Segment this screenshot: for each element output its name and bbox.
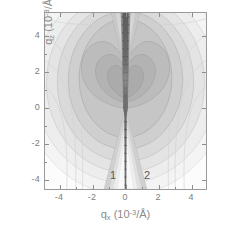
y-tick-major xyxy=(202,36,206,37)
annotation-2: 2 xyxy=(144,169,150,181)
x-tick-major xyxy=(93,185,94,189)
y-tick-major xyxy=(45,180,49,181)
x-axis-label: qx (10-3/Å) xyxy=(44,208,207,222)
y-axis-label-symbol: q xyxy=(42,39,54,45)
x-tick-label: 4 xyxy=(188,192,193,202)
y-axis-label-unit-close: /Å) xyxy=(42,0,54,9)
x-tick-major xyxy=(159,13,160,17)
x-tick-major xyxy=(192,185,193,189)
y-axis-label-wrap: qz (10-3/Å) xyxy=(14,12,30,190)
x-tick-minor xyxy=(142,187,143,189)
y-axis-label-unit-open: (10 xyxy=(42,16,54,35)
x-tick-major xyxy=(126,185,127,189)
plot-area: 1 2 xyxy=(44,12,207,190)
x-axis-label-unit-close: /Å) xyxy=(136,208,150,220)
y-tick-major xyxy=(202,72,206,73)
x-tick-label: 0 xyxy=(122,192,127,202)
x-tick-label: 2 xyxy=(155,192,160,202)
y-tick-major xyxy=(202,180,206,181)
y-tick-major xyxy=(202,108,206,109)
y-tick-major xyxy=(45,144,49,145)
contour-map xyxy=(45,13,206,189)
scattering-contour-figure: 1 2 -4 -2 0 2 4 xyxy=(0,0,241,241)
x-tick-minor xyxy=(76,187,77,189)
x-tick-major xyxy=(192,13,193,17)
x-tick-label: -4 xyxy=(55,192,63,202)
y-tick-minor xyxy=(45,162,47,163)
x-tick-label: -2 xyxy=(88,192,96,202)
annotation-1: 1 xyxy=(110,169,116,181)
y-axis-label-subscript: z xyxy=(47,35,56,39)
y-tick-major xyxy=(202,144,206,145)
y-tick-label: -4 xyxy=(32,174,40,184)
y-axis-label-exponent: -3 xyxy=(42,9,51,16)
x-tick-major xyxy=(93,13,94,17)
x-tick-major xyxy=(60,185,61,189)
x-axis-label-unit-open: (10 xyxy=(111,208,130,220)
y-axis-label: qz (10-3/Å) xyxy=(39,0,55,109)
x-tick-major xyxy=(159,185,160,189)
y-tick-minor xyxy=(45,126,47,127)
x-tick-major xyxy=(126,13,127,17)
y-tick-label: -2 xyxy=(32,138,40,148)
x-tick-major xyxy=(60,13,61,17)
x-tick-minor xyxy=(109,187,110,189)
x-tick-minor xyxy=(175,187,176,189)
